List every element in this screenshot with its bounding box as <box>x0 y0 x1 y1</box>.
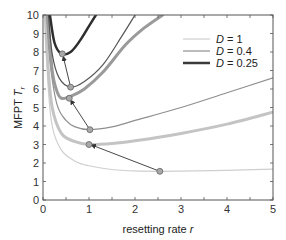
x-tick-label: 0 <box>40 203 46 215</box>
x-axis-label: resetting rate r <box>123 223 195 235</box>
y-tick-label: 0 <box>33 194 39 206</box>
y-axis-label: MFPT Tr <box>12 87 27 130</box>
minimum-marker-1 <box>68 84 74 90</box>
y-tick-label: 5 <box>33 102 39 114</box>
annotation-layer <box>63 57 160 172</box>
series-line-3 <box>48 15 163 99</box>
minimum-marker-2 <box>66 95 72 101</box>
legend: D = 1D = 0.4D = 0.25 <box>183 33 258 69</box>
minimum-marker-4 <box>86 142 92 148</box>
legend-entry-1: D = 0.4 <box>216 45 252 57</box>
arrow-annotation-2 <box>63 57 70 88</box>
x-tick-label: 4 <box>224 203 230 215</box>
y-tick-label: 9 <box>33 28 39 40</box>
legend-entry-2: D = 0.25 <box>216 57 258 69</box>
y-tick-label: 4 <box>33 120 39 132</box>
x-tick-label: 5 <box>270 203 276 215</box>
minimum-marker-3 <box>87 127 93 133</box>
y-tick-label: 6 <box>33 83 39 95</box>
x-tick-label: 3 <box>178 203 184 215</box>
marker-layer <box>59 51 163 174</box>
x-tick-label: 1 <box>86 203 92 215</box>
legend-entry-0: D = 1 <box>216 33 243 45</box>
y-tick-label: 8 <box>33 46 39 58</box>
mfpt-chart: 012345012345678910 D = 1D = 0.4D = 0.25 … <box>0 0 286 240</box>
y-tick-label: 1 <box>33 176 39 188</box>
y-tick-label: 7 <box>33 65 39 77</box>
y-tick-label: 3 <box>33 139 39 151</box>
arrow-annotation-1 <box>71 100 90 130</box>
chart-svg: 012345012345678910 D = 1D = 0.4D = 0.25 … <box>0 0 286 240</box>
minimum-marker-5 <box>157 168 163 174</box>
minimum-marker-0 <box>59 51 65 57</box>
arrow-annotation-0 <box>91 145 160 171</box>
y-tick-label: 10 <box>27 9 39 21</box>
y-tick-label: 2 <box>33 157 39 169</box>
series-line-5 <box>50 15 96 55</box>
x-tick-label: 2 <box>132 203 138 215</box>
